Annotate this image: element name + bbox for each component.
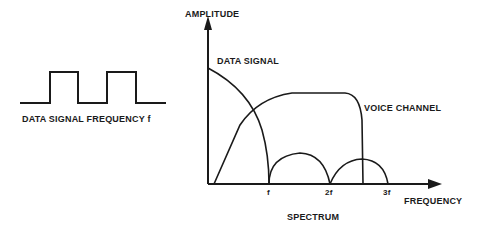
- voice-channel-curve: [214, 93, 363, 184]
- square-wave: [20, 72, 166, 103]
- y-axis-label: AMPLITUDE: [185, 9, 239, 19]
- data-signal-side-lobe-2: [330, 159, 388, 184]
- data-signal-main-lobe: [208, 68, 269, 184]
- voice-channel-label: VOICE CHANNEL: [364, 103, 441, 113]
- data-signal-label: DATA SIGNAL: [217, 56, 279, 66]
- tick-3f: 3f: [383, 188, 391, 197]
- x-axis-arrow-icon: [428, 179, 442, 189]
- data-signal-side-lobe-1: [269, 153, 330, 184]
- tick-2f: 2f: [325, 188, 333, 197]
- spectrum-caption: SPECTRUM: [287, 212, 339, 222]
- x-axis-label: FREQUENCY: [404, 196, 462, 206]
- tick-f: f: [267, 188, 270, 197]
- data-signal-caption: DATA SIGNAL FREQUENCY f: [22, 114, 151, 124]
